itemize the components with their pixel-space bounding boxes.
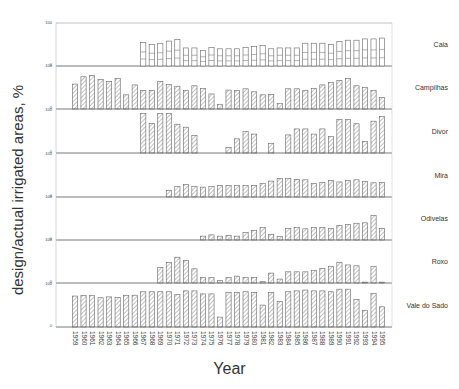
x-tick-label: 1972: [183, 331, 190, 345]
bar: [166, 262, 171, 283]
x-tick-label: 1961: [89, 331, 96, 345]
panel-odivelas: [56, 197, 392, 240]
x-tick-label: 1980: [251, 331, 258, 345]
bar: [243, 89, 248, 109]
x-tick-label: 1969: [157, 331, 164, 345]
bar: [320, 228, 325, 240]
bar: [303, 229, 308, 240]
bar: [269, 94, 274, 109]
bar: [371, 266, 376, 283]
bar: [328, 82, 333, 109]
x-tick-label: 1959: [72, 331, 79, 345]
panel-mira: [56, 154, 392, 197]
panel-label-mira: Mira: [368, 172, 448, 179]
bar: [166, 113, 171, 153]
bar: [89, 296, 94, 327]
bar: [269, 181, 274, 197]
x-tick-label: 1962: [98, 331, 105, 345]
bar: [286, 89, 291, 109]
x-tick-label: 1992: [353, 331, 360, 345]
bar: [234, 236, 239, 240]
bar: [294, 48, 299, 66]
bar: [294, 89, 299, 109]
panel-label-caia: Caia: [368, 41, 448, 48]
bar: [311, 228, 316, 240]
x-tick-label: 1993: [362, 331, 369, 345]
bar: [371, 293, 376, 327]
bar: [260, 184, 265, 197]
bar: [226, 147, 231, 153]
bar: [345, 225, 350, 240]
bar: [286, 48, 291, 66]
bar: [260, 305, 265, 327]
bar: [158, 113, 163, 153]
bar: [217, 104, 222, 109]
bar: [183, 48, 188, 66]
y-tick-100: 100: [38, 237, 52, 242]
bar: [311, 291, 316, 327]
bar: [320, 182, 325, 197]
bar: [209, 94, 214, 109]
bar: [379, 228, 384, 240]
bar: [277, 103, 282, 109]
bar: [379, 282, 384, 283]
bar: [175, 294, 180, 327]
bar: [243, 292, 248, 327]
bar: [345, 265, 350, 283]
bar: [234, 139, 239, 153]
bar: [209, 294, 214, 327]
bar: [192, 135, 197, 153]
bar: [286, 135, 291, 153]
bar: [320, 129, 325, 153]
bar: [269, 144, 274, 153]
bar: [192, 269, 197, 283]
bar: [337, 289, 342, 327]
bar: [72, 84, 77, 109]
bar: [234, 276, 239, 283]
bar: [98, 298, 103, 327]
bar: [277, 179, 282, 197]
bar: [362, 223, 367, 240]
bar: [277, 279, 282, 283]
bar: [269, 49, 274, 66]
bar: [337, 81, 342, 109]
bar: [124, 296, 129, 327]
bar: [115, 297, 120, 327]
bar: [226, 277, 231, 283]
bar: [209, 277, 214, 283]
bar: [320, 291, 325, 327]
x-tick-label: 1990: [336, 331, 343, 345]
bar: [260, 95, 265, 109]
bar: [294, 129, 299, 153]
bar: [286, 228, 291, 240]
x-tick-label: 1965: [123, 331, 130, 345]
bar: [200, 187, 205, 197]
bar: [115, 78, 120, 109]
bar: [362, 310, 367, 327]
x-tick-label: 1982: [268, 331, 275, 345]
x-tick-label: 1968: [149, 331, 156, 345]
bar: [269, 234, 274, 240]
x-tick-label: 1995: [379, 331, 386, 345]
bar: [286, 292, 291, 327]
bar: [243, 185, 248, 197]
x-tick-label: 1975: [208, 331, 215, 345]
bar: [260, 282, 265, 283]
bar: [217, 236, 222, 240]
bar: [141, 113, 146, 153]
bar: [141, 42, 146, 66]
bar: [158, 44, 163, 66]
bar: [175, 124, 180, 153]
bar: [175, 257, 180, 283]
bar: [234, 293, 239, 327]
panel-label-odivelas: Odivelas: [368, 215, 448, 222]
bar: [183, 261, 188, 283]
x-tick-label: 1994: [371, 331, 378, 345]
panel-label-vale-do-sado: Vale do Sado: [368, 302, 448, 309]
x-tick-label: 1981: [260, 331, 267, 345]
bar: [379, 182, 384, 197]
bar: [311, 184, 316, 197]
bar: [354, 299, 359, 327]
bar: [337, 225, 342, 240]
x-tick-label: 1983: [277, 331, 284, 345]
